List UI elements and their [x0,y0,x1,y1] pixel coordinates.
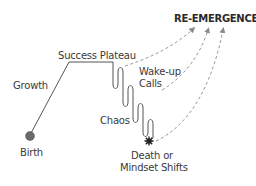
wake-up-calls-line-1: Wake-up [139,66,181,77]
birth-label: Birth [20,147,43,158]
death-or-mindset-shifts-label: Death or Mindset Shifts [120,150,184,173]
success-plateau-label: Success Plateau [58,50,136,61]
birth-dot-icon [26,132,35,141]
reemergence-title: RE-EMERGENCE [174,13,256,24]
death-line-2: Mindset Shifts [120,162,184,173]
wake-up-calls-line-2: Calls [139,78,181,89]
growth-label: Growth [13,80,48,91]
death-line-1: Death or [120,150,184,161]
chaos-label: Chaos [100,115,130,126]
wake-up-calls-label: Wake-up Calls [139,66,181,89]
death-star-icon [145,137,154,146]
